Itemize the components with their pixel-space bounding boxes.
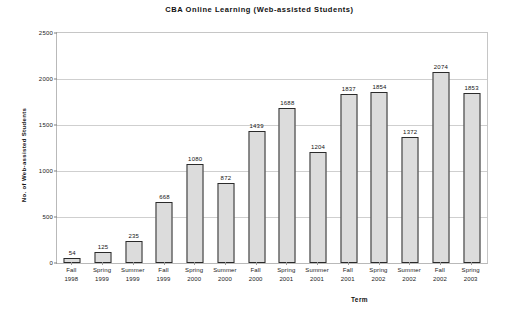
bar-group: 1439	[241, 33, 272, 263]
x-axis-tick-label: Spring2003	[455, 266, 486, 283]
chart-title: CBA Online Learning (Web-assisted Studen…	[0, 5, 519, 14]
x-axis-tick-label-line: 2002	[363, 275, 394, 284]
x-axis-tick-label: Spring2000	[179, 266, 210, 283]
x-axis-tick-label-line: 2002	[425, 275, 456, 284]
x-axis-tick-label-line: Summer	[394, 266, 425, 275]
x-axis-tick-label: Fall2001	[332, 266, 363, 283]
y-axis-tick-label: 2000	[39, 76, 53, 82]
bar	[187, 164, 204, 263]
bar-value-label: 872	[221, 175, 232, 181]
x-axis-tick-label-line: Fall	[240, 266, 271, 275]
bar-group: 1837	[333, 33, 364, 263]
bar-group: 235	[118, 33, 149, 263]
bar-group: 125	[88, 33, 119, 263]
x-axis-tick-mark	[133, 262, 134, 265]
bar-chart: CBA Online Learning (Web-assisted Studen…	[0, 0, 519, 321]
x-axis-tick-mark	[409, 262, 410, 265]
y-axis-title: No. of Web-assisted Students	[21, 85, 27, 225]
x-axis-tick-label-line: 2002	[394, 275, 425, 284]
bar-value-label: 1372	[403, 129, 417, 135]
bar-value-label: 54	[69, 250, 76, 256]
x-axis-tick-label: Fall2000	[240, 266, 271, 283]
bar-value-label: 1837	[342, 86, 356, 92]
bar	[432, 72, 449, 263]
bar-group: 1854	[364, 33, 395, 263]
x-axis-tick-label: Summer2001	[302, 266, 333, 283]
x-axis-tick-label-line: Fall	[56, 266, 87, 275]
bar	[248, 131, 265, 263]
x-axis-tick-mark	[256, 262, 257, 265]
x-axis-tick-label-line: 1998	[56, 275, 87, 284]
bar-value-label: 235	[128, 233, 139, 239]
x-axis-tick-mark	[379, 262, 380, 265]
x-axis-tick-label-line: Spring	[271, 266, 302, 275]
bar-group: 1853	[456, 33, 487, 263]
y-axis-tick-label: 2500	[39, 30, 53, 36]
x-axis-tick-label-line: Spring	[87, 266, 118, 275]
x-axis-tick-label-line: 1999	[117, 275, 148, 284]
y-axis-tick-label: 500	[42, 214, 53, 220]
bar-value-label: 1688	[280, 100, 294, 106]
x-axis-tick-mark	[164, 262, 165, 265]
bar-value-label: 1080	[188, 156, 202, 162]
x-axis-tick-label-line: 2001	[271, 275, 302, 284]
bar	[402, 137, 419, 263]
bar-group: 1204	[303, 33, 334, 263]
x-axis-tick-mark	[71, 262, 72, 265]
x-axis-tick-label: Summer2000	[210, 266, 241, 283]
y-axis-tick-label: 1500	[39, 122, 53, 128]
bar-value-label: 1854	[372, 84, 386, 90]
x-axis-tick-mark	[317, 262, 318, 265]
bar-group: 872	[211, 33, 242, 263]
x-axis-tick-label-line: 2003	[455, 275, 486, 284]
x-axis-title: Term	[0, 296, 519, 303]
y-axis-tick-label: 0	[49, 260, 53, 266]
bar	[64, 258, 81, 263]
x-axis-tick-label-line: 2001	[302, 275, 333, 284]
x-axis-tick-label-line: Spring	[179, 266, 210, 275]
bar-value-label: 1439	[250, 123, 264, 129]
x-axis-tick-mark	[348, 262, 349, 265]
x-axis-tick-mark	[194, 262, 195, 265]
bar-group: 54	[57, 33, 88, 263]
bar-group: 1372	[395, 33, 426, 263]
x-axis-tick-label-line: Summer	[302, 266, 333, 275]
plot-area: 05001000150020002500 5412523566810808721…	[56, 32, 488, 264]
bar-value-label: 668	[159, 194, 170, 200]
x-axis-tick-label: Fall1999	[148, 266, 179, 283]
x-axis-tick-label-line: 1999	[148, 275, 179, 284]
x-axis-tick-mark	[471, 262, 472, 265]
bar-value-label: 2074	[434, 64, 448, 70]
x-axis-tick-label: Summer1999	[117, 266, 148, 283]
x-axis-tick-labels: Fall1998Spring1999Summer1999Fall1999Spri…	[56, 266, 488, 292]
y-axis-tick-label: 1000	[39, 168, 53, 174]
bar	[156, 202, 173, 263]
x-axis-tick-label-line: Spring	[455, 266, 486, 275]
bar	[340, 94, 357, 263]
bars-layer: 5412523566810808721439168812041837185413…	[57, 33, 487, 263]
bar-value-label: 125	[98, 244, 109, 250]
x-axis-tick-label: Fall2002	[425, 266, 456, 283]
x-axis-tick-label: Spring1999	[87, 266, 118, 283]
x-axis-tick-label-line: 2000	[210, 275, 241, 284]
x-axis-tick-mark	[286, 262, 287, 265]
x-axis-tick-label: Spring2001	[271, 266, 302, 283]
x-axis-tick-label-line: 1999	[87, 275, 118, 284]
x-axis-tick-label-line: Summer	[210, 266, 241, 275]
x-axis-tick-label-line: 2000	[179, 275, 210, 284]
x-axis-tick-label-line: Fall	[425, 266, 456, 275]
x-axis-tick-mark	[440, 262, 441, 265]
x-axis-tick-label-line: Spring	[363, 266, 394, 275]
x-axis-tick-label-line: 2000	[240, 275, 271, 284]
bar-group: 668	[149, 33, 180, 263]
bar	[279, 108, 296, 263]
bar	[371, 92, 388, 263]
x-axis-tick-label: Spring2002	[363, 266, 394, 283]
x-axis-tick-label: Summer2002	[394, 266, 425, 283]
x-axis-tick-label-line: Fall	[332, 266, 363, 275]
x-axis-tick-label-line: Fall	[148, 266, 179, 275]
x-axis-tick-mark	[225, 262, 226, 265]
x-axis-tick-mark	[102, 262, 103, 265]
bar-group: 1688	[272, 33, 303, 263]
bar	[310, 152, 327, 263]
